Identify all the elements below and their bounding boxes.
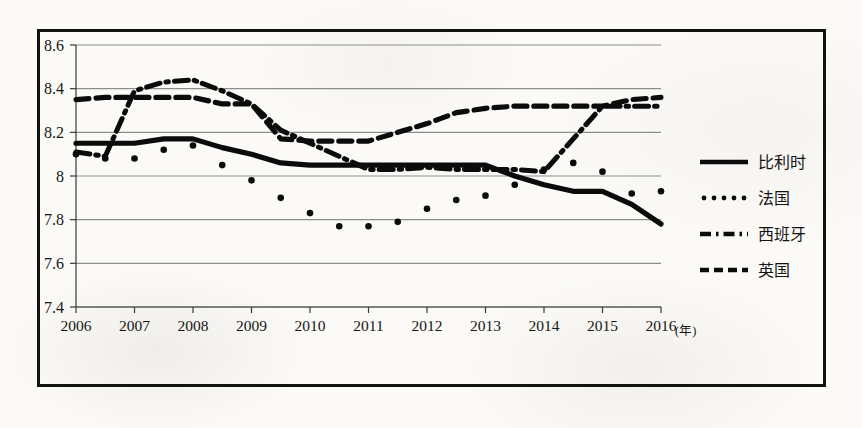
data-point <box>599 168 606 175</box>
y-axis-tick-label: 7.6 <box>44 255 64 272</box>
legend-item-4[interactable]: 英国 <box>700 262 790 279</box>
legend-item-label: 西班牙 <box>758 226 806 243</box>
y-axis: 8.68.48.287.87.67.4 <box>44 37 76 316</box>
legend-dotted-line-icon <box>712 196 717 201</box>
x-axis-unit-label: (年) <box>675 324 696 338</box>
legend-item-3[interactable]: 西班牙 <box>700 226 806 243</box>
series-dotted <box>73 142 665 229</box>
y-axis-tick-label: 8.6 <box>44 37 64 54</box>
x-axis: 2006200720082009201020112012201320142015… <box>61 307 697 338</box>
data-point <box>131 155 138 162</box>
x-axis-tick-label: 2011 <box>353 317 383 334</box>
x-axis-tick-label: 2006 <box>61 317 92 334</box>
y-axis-tick-label: 8.2 <box>44 124 64 141</box>
data-point <box>394 219 401 226</box>
legend-item-label: 法国 <box>758 190 790 207</box>
legend-dotted-line-icon <box>742 196 747 201</box>
x-axis-tick-label: 2013 <box>470 317 501 334</box>
series-line <box>76 80 661 172</box>
series-line <box>76 97 661 141</box>
data-point <box>482 192 489 199</box>
legend-item-label: 英国 <box>758 262 790 279</box>
chart-legend: 比利时法国西班牙英国 <box>700 154 806 279</box>
y-axis-tick-label: 8.4 <box>44 80 64 97</box>
legend-item-1[interactable]: 比利时 <box>700 154 806 171</box>
x-axis-tick-label: 2016 <box>646 317 677 334</box>
legend-dotted-line-icon <box>702 196 707 201</box>
data-point <box>424 205 431 212</box>
data-point <box>336 223 343 230</box>
chart-page: 8.68.48.287.87.67.4 20062007200820092010… <box>0 0 862 428</box>
legend-item-2[interactable]: 法国 <box>702 190 790 207</box>
data-point <box>307 210 314 217</box>
line-chart: 8.68.48.287.87.67.4 20062007200820092010… <box>0 0 862 428</box>
series-dashed <box>76 97 661 141</box>
y-axis-tick-label: 7.8 <box>44 211 64 228</box>
legend-dotted-line-icon <box>722 196 727 201</box>
data-series <box>73 80 665 230</box>
x-axis-tick-label: 2008 <box>178 317 209 334</box>
data-point <box>190 142 197 149</box>
x-axis-tick-label: 2014 <box>529 317 560 334</box>
legend-item-label: 比利时 <box>758 154 806 171</box>
series-dashdot <box>76 80 661 172</box>
data-point <box>219 162 226 169</box>
data-point <box>453 197 460 204</box>
data-point <box>365 223 372 230</box>
data-point <box>511 181 518 188</box>
x-axis-tick-label: 2015 <box>587 317 618 334</box>
x-axis-tick-label: 2012 <box>412 317 443 334</box>
x-axis-tick-label: 2007 <box>119 317 150 334</box>
y-axis-tick-label: 7.4 <box>44 299 64 316</box>
data-point <box>160 147 167 154</box>
data-point <box>248 177 255 184</box>
data-point <box>570 160 577 167</box>
y-axis-tick-label: 8 <box>56 168 64 185</box>
data-point <box>628 190 635 197</box>
data-point <box>658 188 665 195</box>
gridlines <box>76 45 661 307</box>
data-point <box>277 195 284 202</box>
legend-dotted-line-icon <box>732 196 737 201</box>
x-axis-tick-label: 2009 <box>236 317 267 334</box>
x-axis-tick-label: 2010 <box>295 317 326 334</box>
